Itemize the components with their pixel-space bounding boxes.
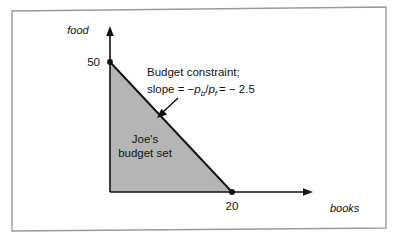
annotation-pointer-line — [162, 98, 178, 113]
budget-constraint-annotation-line2: slope = −pb/pf= − 2.5 — [147, 83, 255, 98]
budget-constraint-chart: food books 50 20 Joe's budget set Budget… — [0, 0, 401, 240]
y-axis-arrowhead-icon — [106, 26, 114, 36]
x-intercept-point — [229, 189, 235, 195]
slope-suffix: = − 2.5 — [219, 83, 255, 95]
x-tick-label-20: 20 — [226, 200, 239, 212]
budget-constraint-annotation-line1: Budget constraint; — [147, 66, 240, 78]
y-axis-label: food — [67, 24, 89, 36]
figure-root: food books 50 20 Joe's budget set Budget… — [0, 0, 401, 240]
y-tick-label-50: 50 — [87, 56, 100, 68]
x-axis-label: books — [330, 202, 360, 214]
slope-denominator-subscript: f — [215, 89, 218, 98]
budget-set-label-line2: budget set — [118, 147, 173, 159]
slope-prefix: slope = − — [147, 83, 195, 95]
y-intercept-point — [107, 59, 113, 65]
budget-set-label-line1: Joe's — [132, 133, 159, 145]
x-axis-arrowhead-icon — [303, 188, 313, 196]
